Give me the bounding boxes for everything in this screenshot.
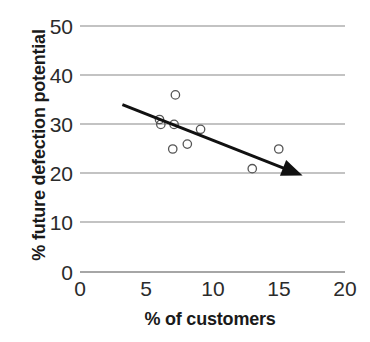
- x-tick-labels: 0 5 10 15 20: [74, 277, 357, 300]
- y-tick-labels: 50 40 30 20 10 0: [50, 15, 73, 284]
- x-tick-label: 15: [267, 277, 290, 300]
- y-tick-label: 20: [50, 162, 73, 185]
- scatter-plot-area: 50 40 30 20 10 0 0 5 10 15 20: [0, 0, 370, 342]
- data-point: [196, 125, 204, 133]
- y-tick-label: 30: [50, 113, 73, 136]
- gridlines: [80, 26, 345, 272]
- x-axis-title: % of customers: [60, 309, 360, 330]
- y-tick-label: 10: [50, 211, 73, 234]
- x-tick-label: 10: [201, 277, 224, 300]
- data-point: [248, 164, 256, 172]
- downward-trend-arrow: [122, 105, 302, 176]
- y-tick-label: 0: [61, 261, 73, 284]
- x-tick-label: 5: [140, 277, 152, 300]
- arrow-head-icon: [280, 160, 303, 176]
- x-tick-label: 20: [333, 277, 356, 300]
- data-point: [183, 140, 191, 148]
- data-point: [169, 145, 177, 153]
- x-tick-label: 0: [74, 277, 86, 300]
- data-point: [171, 91, 179, 99]
- data-point: [275, 145, 283, 153]
- y-tick-label: 40: [50, 64, 73, 87]
- trend-line: [122, 105, 288, 170]
- chart-figure: % future defection potential 50 40 30 20…: [0, 0, 370, 342]
- y-tick-label: 50: [50, 15, 73, 38]
